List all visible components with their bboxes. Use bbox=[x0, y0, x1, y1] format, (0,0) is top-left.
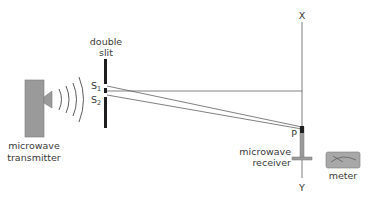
receiver-antenna-icon bbox=[300, 126, 304, 133]
label-x: X bbox=[299, 10, 306, 21]
transmitter-horn-icon bbox=[44, 91, 52, 108]
label-transmitter-line1: microwave bbox=[8, 140, 60, 151]
label-receiver-line1: microwave bbox=[239, 146, 291, 157]
microwave-waves-icon bbox=[59, 77, 84, 122]
label-double: double bbox=[90, 36, 123, 47]
label-y: Y bbox=[298, 182, 305, 193]
transmitter-body bbox=[25, 80, 44, 137]
label-point-p: P bbox=[291, 128, 297, 139]
path-rays bbox=[107, 86, 302, 129]
meter-body bbox=[326, 152, 360, 168]
double-slit-barrier bbox=[104, 59, 107, 128]
label-s2: S2 bbox=[91, 94, 101, 107]
microwave-transmitter bbox=[25, 80, 52, 137]
label-s1: S1 bbox=[91, 80, 101, 93]
receiver-base bbox=[292, 157, 312, 160]
double-slit-diagram: double slit S1 S2 microwave transmitter … bbox=[0, 0, 372, 199]
label-receiver-line2: receiver bbox=[252, 157, 291, 168]
label-slit: slit bbox=[99, 47, 113, 58]
label-transmitter-line2: transmitter bbox=[7, 152, 61, 163]
label-meter: meter bbox=[329, 170, 358, 181]
meter bbox=[326, 152, 360, 168]
